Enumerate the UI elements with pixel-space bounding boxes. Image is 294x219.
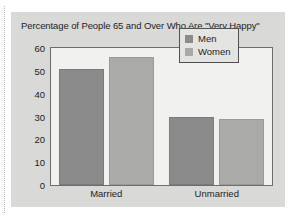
bar-unmarried-men xyxy=(169,117,214,186)
bar-married-women xyxy=(109,57,154,185)
legend-item-men: Men xyxy=(185,32,231,45)
page-margin-rule xyxy=(4,6,5,213)
y-axis-tick-label: 50 xyxy=(34,65,45,76)
y-axis: 0102030405060 xyxy=(11,42,50,187)
chart-figure-card: Percentage of People 65 and Over Who Are… xyxy=(11,12,285,207)
y-axis-tick-label: 40 xyxy=(34,88,45,99)
legend-swatch-icon xyxy=(185,48,193,56)
y-axis-tick-label: 30 xyxy=(34,111,45,122)
bar-unmarried-women xyxy=(219,119,264,185)
legend-swatch-icon xyxy=(185,35,193,43)
x-axis-label-unmarried: Unmarried xyxy=(195,188,239,199)
legend-label: Women xyxy=(198,47,231,57)
bar-married-men xyxy=(59,69,104,185)
y-axis-tick-label: 60 xyxy=(34,43,45,54)
plot-area xyxy=(50,47,273,186)
x-axis-label-married: Married xyxy=(90,188,122,199)
chart-legend: MenWomen xyxy=(179,28,239,63)
y-axis-tick-label: 10 xyxy=(34,157,45,168)
legend-label: Men xyxy=(198,34,216,44)
plot-inner xyxy=(51,48,272,185)
legend-item-women: Women xyxy=(185,45,231,58)
bars-layer xyxy=(51,48,272,185)
y-axis-tick-label: 20 xyxy=(34,134,45,145)
x-axis-labels: MarriedUnmarried xyxy=(50,188,273,206)
y-axis-tick-label: 0 xyxy=(40,180,45,191)
